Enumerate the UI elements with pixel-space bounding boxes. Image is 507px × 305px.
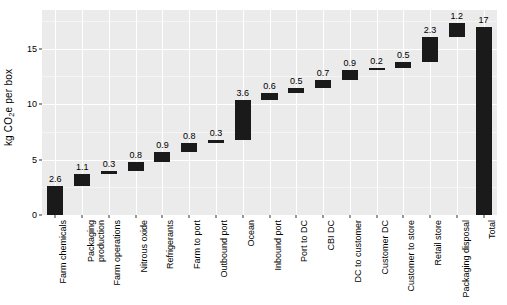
- bar-value-label: 17: [479, 15, 489, 25]
- x-axis-tick-label: Packaging disposal: [462, 220, 472, 298]
- bar-value-label: 0.2: [370, 56, 383, 66]
- bar-segment[interactable]: [449, 23, 465, 36]
- gridline-vertical: [296, 10, 297, 215]
- bar-value-label: 0.5: [397, 50, 410, 60]
- y-axis-tick-label: 15: [27, 44, 37, 54]
- gridline-vertical: [136, 10, 137, 215]
- y-axis-title: kg CO2e per box: [0, 0, 18, 215]
- x-axis-tick-mark: [296, 215, 297, 218]
- gridline-vertical: [189, 10, 190, 215]
- bar-segment[interactable]: [235, 100, 251, 140]
- gridline-vertical: [457, 10, 458, 215]
- bar-segment[interactable]: [74, 174, 90, 186]
- bar-value-label: 2.6: [49, 174, 62, 184]
- bar-value-label: 3.6: [236, 88, 249, 98]
- bar-value-label: 0.7: [317, 68, 330, 78]
- bar-value-label: 0.6: [263, 81, 276, 91]
- y-axis-title-text: kg CO2e per box: [4, 69, 15, 146]
- y-axis: 051015: [18, 10, 42, 215]
- gridline-vertical: [377, 10, 378, 215]
- x-axis-tick-label: Inbound port: [274, 220, 284, 271]
- x-axis: Farm chemicalsPackaging productionFarm o…: [42, 215, 497, 305]
- x-axis-tick-mark: [323, 215, 324, 218]
- x-axis-tick-label: Total: [488, 220, 498, 239]
- x-axis-tick-mark: [269, 215, 270, 218]
- bar-value-label: 0.3: [103, 159, 116, 169]
- x-axis-tick-mark: [135, 215, 136, 218]
- x-axis-tick-label: Refrigerants: [166, 220, 176, 269]
- y-axis-tick-label: 10: [27, 99, 37, 109]
- gridline-vertical: [55, 10, 56, 215]
- x-axis-tick-label: Farm to port: [193, 220, 203, 269]
- waterfall-chart: kg CO2e per box 051015 2.61.10.30.80.90.…: [0, 0, 507, 305]
- x-axis-tick-label: Outbound port: [220, 220, 230, 278]
- x-axis-tick-mark: [55, 215, 56, 218]
- bar-value-label: 0.3: [210, 128, 223, 138]
- bar-value-label: 0.5: [290, 76, 303, 86]
- x-axis-tick-label: Port to DC: [300, 220, 310, 262]
- x-axis-tick-mark: [189, 215, 190, 218]
- bar-value-label: 0.9: [344, 58, 357, 68]
- bar-segment[interactable]: [315, 80, 331, 88]
- x-axis-tick-mark: [376, 215, 377, 218]
- gridline-vertical: [403, 10, 404, 215]
- x-axis-tick-mark: [162, 215, 163, 218]
- x-axis-tick-label: Customer to store: [407, 220, 417, 292]
- bar-segment[interactable]: [369, 68, 385, 70]
- x-axis-tick-mark: [430, 215, 431, 218]
- x-axis-tick-mark: [108, 215, 109, 218]
- bar-segment[interactable]: [288, 88, 304, 94]
- bar-value-label: 0.8: [183, 131, 196, 141]
- gridline-vertical: [109, 10, 110, 215]
- bar-segment[interactable]: [261, 93, 277, 100]
- x-axis-tick-label: Ocean: [247, 220, 257, 247]
- bar-segment[interactable]: [422, 37, 438, 62]
- x-axis-tick-mark: [215, 215, 216, 218]
- y-axis-tick-label: 5: [32, 155, 37, 165]
- bar-segment[interactable]: [128, 162, 144, 171]
- bar-segment[interactable]: [101, 171, 117, 174]
- bar-segment[interactable]: [154, 152, 170, 162]
- x-axis-tick-label: Packaging production: [87, 220, 106, 298]
- x-axis-tick-mark: [242, 215, 243, 218]
- gridline-vertical: [323, 10, 324, 215]
- x-axis-tick-label: Nitrous oxide: [140, 220, 150, 273]
- x-axis-tick-label: Customer DC: [381, 220, 391, 275]
- plot-panel: 2.61.10.30.80.90.80.33.60.60.50.70.90.20…: [42, 10, 497, 215]
- x-axis-tick-mark: [82, 215, 83, 218]
- bar-value-label: 0.8: [129, 150, 142, 160]
- x-axis-tick-label: Retail store: [434, 220, 444, 266]
- bar-value-label: 2.3: [424, 25, 437, 35]
- x-axis-tick-label: Farm operations: [113, 220, 123, 286]
- gridline-vertical: [162, 10, 163, 215]
- bar-total[interactable]: [476, 27, 492, 215]
- x-axis-tick-mark: [349, 215, 350, 218]
- bar-segment[interactable]: [47, 186, 63, 215]
- bar-value-label: 1.1: [76, 162, 89, 172]
- bar-segment[interactable]: [181, 143, 197, 152]
- gridline-vertical: [270, 10, 271, 215]
- bar-value-label: 1.2: [451, 11, 464, 21]
- x-axis-tick-mark: [456, 215, 457, 218]
- bar-value-label: 0.9: [156, 140, 169, 150]
- x-axis-tick-mark: [483, 215, 484, 218]
- x-axis-tick-label: Farm chemicals: [59, 220, 69, 284]
- y-axis-tick-label: 0: [32, 210, 37, 220]
- x-axis-tick-label: CBI DC: [327, 220, 337, 251]
- gridline-vertical: [216, 10, 217, 215]
- gridline-vertical: [350, 10, 351, 215]
- bar-segment[interactable]: [395, 62, 411, 68]
- bar-segment[interactable]: [342, 70, 358, 80]
- x-axis-tick-label: DC to customer: [354, 220, 364, 283]
- bar-segment[interactable]: [208, 140, 224, 143]
- x-axis-tick-mark: [403, 215, 404, 218]
